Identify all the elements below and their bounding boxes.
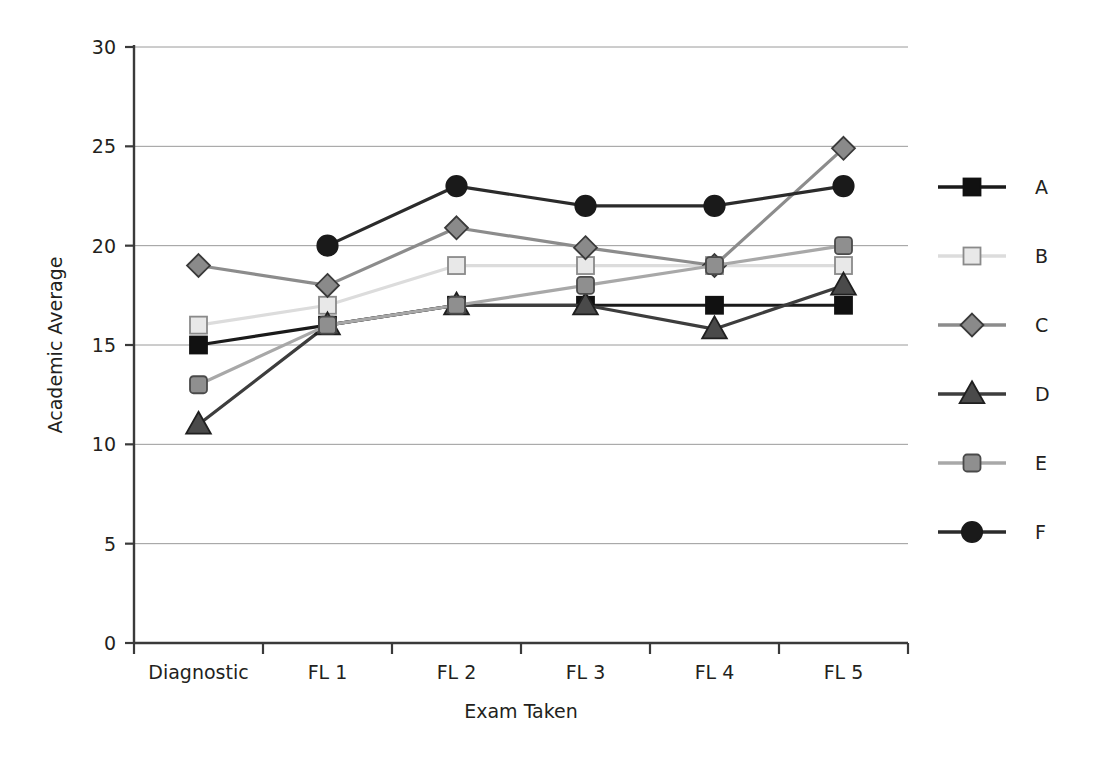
y-tick-label-group: 051015202530 xyxy=(92,36,134,654)
y-tick-label: 30 xyxy=(92,36,116,58)
legend-label-A: A xyxy=(1035,176,1048,198)
data-point-D xyxy=(831,273,856,295)
y-tick-label: 15 xyxy=(92,334,116,356)
legend-item-E[interactable]: E xyxy=(938,452,1047,474)
chart-container: 051015202530 DiagnosticFL 1FL 2FL 3FL 4F… xyxy=(0,0,1102,760)
legend-label-E: E xyxy=(1035,452,1047,474)
legend-label-B: B xyxy=(1035,245,1048,267)
y-tick-label: 20 xyxy=(92,235,116,257)
series-C xyxy=(187,137,855,297)
legend-item-C[interactable]: C xyxy=(938,314,1048,337)
legend-marker-F xyxy=(962,522,982,542)
legend-marker-D xyxy=(960,381,985,403)
data-point-F xyxy=(575,196,595,216)
data-point-F xyxy=(317,235,337,255)
data-point-C xyxy=(445,216,468,239)
data-point-E xyxy=(577,277,594,294)
data-point-E xyxy=(706,257,723,274)
y-tick-label: 10 xyxy=(92,433,116,455)
data-point-A xyxy=(706,297,723,314)
data-point-C xyxy=(316,274,339,297)
data-point-E xyxy=(448,297,465,314)
data-point-F xyxy=(704,196,724,216)
data-point-F xyxy=(446,176,466,196)
x-tick-label: Diagnostic xyxy=(148,661,248,683)
x-tick-label: FL 2 xyxy=(437,661,477,683)
legend-label-F: F xyxy=(1035,521,1046,543)
data-point-A xyxy=(190,337,207,354)
legend: ABCDEF xyxy=(938,176,1050,543)
legend-item-A[interactable]: A xyxy=(938,176,1048,198)
legend-marker-E xyxy=(964,455,981,472)
y-tick-label: 0 xyxy=(104,632,116,654)
legend-marker-C xyxy=(961,314,984,337)
y-axis-title: Academic Average xyxy=(44,257,66,434)
data-point-D xyxy=(186,412,211,434)
data-point-E xyxy=(835,237,852,254)
legend-item-F[interactable]: F xyxy=(938,521,1046,543)
x-tick-label: FL 4 xyxy=(695,661,735,683)
legend-marker-B xyxy=(964,248,981,265)
legend-item-B[interactable]: B xyxy=(938,245,1048,267)
x-tick-label: FL 3 xyxy=(566,661,606,683)
legend-label-D: D xyxy=(1035,383,1050,405)
y-tick-label: 5 xyxy=(104,533,116,555)
line-chart: 051015202530 DiagnosticFL 1FL 2FL 3FL 4F… xyxy=(0,0,1102,760)
legend-marker-A xyxy=(964,179,981,196)
legend-label-C: C xyxy=(1035,314,1048,336)
data-point-B xyxy=(190,317,207,334)
data-point-E xyxy=(319,317,336,334)
data-point-C xyxy=(187,254,210,277)
data-point-C xyxy=(574,236,597,259)
legend-item-D[interactable]: D xyxy=(938,381,1050,405)
x-tick-group xyxy=(134,643,908,654)
data-point-B xyxy=(448,257,465,274)
axes-group xyxy=(134,45,908,643)
x-axis-title: Exam Taken xyxy=(464,700,578,722)
data-point-A xyxy=(835,297,852,314)
data-point-F xyxy=(833,176,853,196)
x-tick-label-group: DiagnosticFL 1FL 2FL 3FL 4FL 5 xyxy=(148,661,863,683)
x-tick-label: FL 5 xyxy=(824,661,864,683)
gridlines-group xyxy=(134,47,908,643)
data-series-group xyxy=(186,137,856,434)
x-tick-label: FL 1 xyxy=(308,661,348,683)
data-point-E xyxy=(190,376,207,393)
y-tick-label: 25 xyxy=(92,135,116,157)
